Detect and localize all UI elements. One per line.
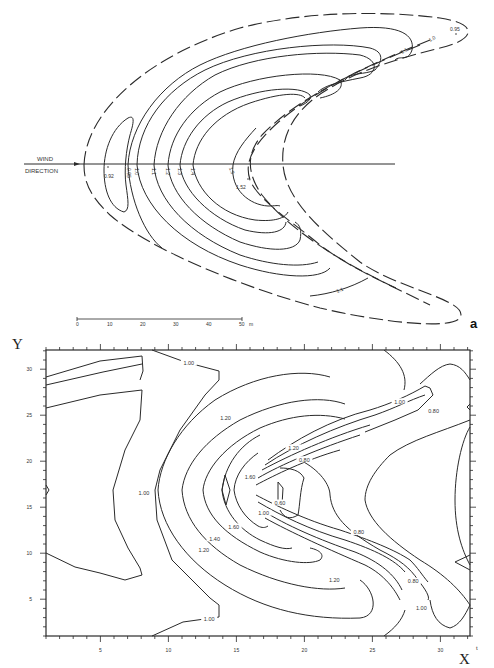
y-tick-label: 15 (26, 504, 32, 510)
label-max-1.52: 1.52 (236, 184, 246, 190)
contour-0.95-low (128, 165, 162, 248)
svg-text:10: 10 (107, 321, 113, 327)
contour-label: 1.20 (329, 577, 340, 583)
wind-arrow-icon (74, 162, 80, 166)
label-tip-0.95: 0.95 (450, 26, 460, 32)
x-tick-label: 10 (166, 647, 172, 653)
x-tick-label: 20 (302, 647, 308, 653)
contour-label: 1.00 (258, 510, 269, 516)
figure-a-contour-plot: WIND DIRECTION 0.92 0.95 1.0 1.1 1.2 1.3… (0, 0, 494, 330)
y-tick-label: 30 (26, 366, 32, 372)
contour-label: 0.60 (275, 500, 286, 506)
label-1.2: 1.2 (165, 168, 171, 175)
wind-label-1: WIND (37, 156, 54, 162)
svg-text:0: 0 (76, 321, 79, 327)
contour-label: 1.00 (183, 360, 194, 366)
axis-ticks (40, 344, 476, 642)
contour-label: 0.80 (299, 457, 310, 463)
svg-text:20: 20 (140, 321, 146, 327)
scale-bar: 0 10 20 30 40 50 m (76, 317, 253, 327)
label-tip-1.0: 1.0 (428, 34, 437, 43)
x-tick-label: 25 (370, 647, 376, 653)
contour-label: 0.80 (428, 408, 439, 414)
contour-label: 1.00 (204, 616, 215, 622)
label-0.95: 0.95 (126, 168, 132, 178)
contour-1.2-low (168, 165, 301, 249)
label-1.5: 1.5 (228, 166, 236, 175)
corner-label-t: t (476, 645, 478, 651)
contour-label: 1.20 (198, 547, 209, 553)
contour-label: 1.60 (228, 524, 239, 530)
plot-frame (46, 350, 470, 636)
panel-label-a: a (470, 316, 478, 330)
tip-min-point (455, 33, 457, 35)
y-tick-label: 25 (26, 412, 32, 418)
contour-1.0 (137, 45, 381, 165)
wind-label-2: DIRECTION (25, 168, 58, 174)
inner-dashed-2 (250, 45, 420, 290)
x-tick-label: 5 (99, 647, 102, 653)
contour-label: 1.20 (288, 445, 299, 451)
outline-dashed (84, 13, 468, 323)
x-tick-label: 15 (234, 647, 240, 653)
contour-1.2 (168, 74, 341, 165)
label-tip-1.1: 1.1 (400, 46, 409, 55)
contour-0.92 (104, 117, 133, 212)
label-1.0: 1.0 (134, 168, 140, 175)
contour-label: 0.80 (408, 578, 419, 584)
figure-b-contour-plot: 5101520253051015202530 Y X t (0, 330, 494, 668)
contour-1.3 (180, 89, 310, 165)
contour-label: 1.20 (220, 415, 231, 421)
max-point (247, 178, 249, 180)
x-tick-label: 30 (438, 647, 444, 653)
y-tick-label: 20 (26, 458, 32, 464)
x-axis-label: X (459, 651, 470, 667)
contour-1.5 (233, 128, 280, 206)
label-min-0.92: 0.92 (104, 173, 114, 179)
contour-lines (46, 350, 470, 636)
contour-label: 1.00 (139, 490, 150, 496)
min-point (107, 166, 109, 168)
contour-label: 1.40 (209, 536, 220, 542)
label-1.1: 1.1 (151, 168, 157, 175)
contour-label: 1.60 (245, 474, 256, 480)
contour-1.0-low (137, 165, 330, 276)
y-tick-label: 5 (29, 596, 32, 602)
svg-text:30: 30 (173, 321, 179, 327)
axis-tick-labels: 5101520253051015202530 (26, 366, 443, 653)
label-1.3: 1.3 (177, 168, 183, 175)
contour-label: 0.80 (353, 529, 364, 535)
y-tick-label: 10 (26, 550, 32, 556)
svg-text:m: m (249, 321, 253, 327)
contour-1.1 (154, 53, 374, 165)
y-axis-label: Y (12, 336, 23, 352)
contour-label: 1.00 (416, 605, 427, 611)
svg-text:40: 40 (206, 321, 212, 327)
label-1.4: 1.4 (190, 168, 196, 175)
svg-text:50: 50 (239, 321, 245, 327)
contour-label: 1.00 (394, 399, 405, 405)
